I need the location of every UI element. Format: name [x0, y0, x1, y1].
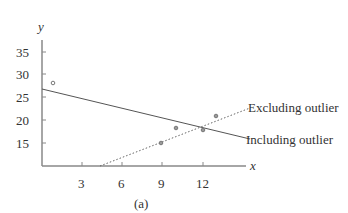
- data-points: [51, 81, 218, 145]
- including-outlier-line: [42, 89, 250, 139]
- x-tick-label: 9: [158, 176, 165, 191]
- chart: y x 35 30 25 20 15 3 6 9 12 Excluding ou…: [0, 0, 348, 213]
- outlier-point: [51, 81, 55, 85]
- excluding-outlier-label: Excluding outlier: [248, 100, 339, 115]
- x-tick-label: 6: [118, 176, 125, 191]
- x-axis-label: x: [249, 158, 256, 173]
- y-axis-label: y: [36, 19, 44, 34]
- x-tick-label: 3: [78, 176, 85, 191]
- including-outlier-label: Including outlier: [246, 132, 334, 147]
- figure-caption: (a): [134, 196, 148, 211]
- x-tick-label: 12: [196, 176, 209, 191]
- y-tick-label: 35: [16, 45, 29, 60]
- y-tick-label: 30: [16, 67, 29, 82]
- y-tick-label: 15: [16, 136, 29, 151]
- y-tick-label: 25: [16, 90, 29, 105]
- excluding-outlier-line: [100, 108, 250, 166]
- y-tick-label: 20: [16, 113, 29, 128]
